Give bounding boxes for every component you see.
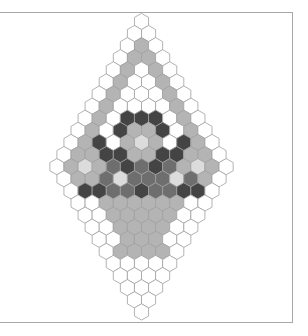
hex-cell — [134, 304, 148, 320]
hex-grid — [0, 0, 308, 336]
